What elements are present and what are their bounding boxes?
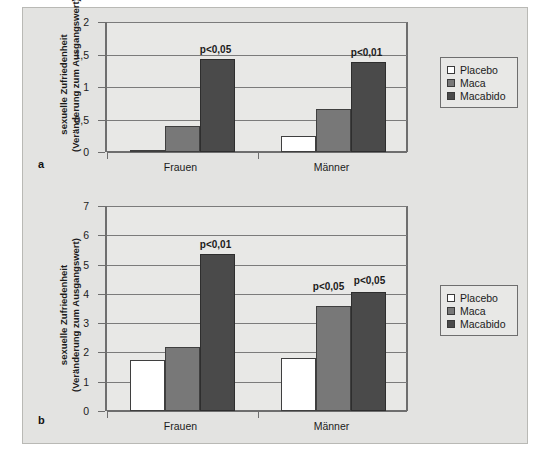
x-axis-category-label: Männer <box>272 420 392 432</box>
y-axis-label: 1,5 <box>59 50 89 60</box>
bar-frauen-macabido <box>200 59 235 152</box>
bar-männer-macabido <box>351 62 386 152</box>
y-axis-label: 2 <box>59 347 89 357</box>
gridline <box>107 22 407 23</box>
gridline <box>107 206 407 207</box>
y-axis-tick <box>98 235 105 236</box>
legend-label-placebo: Placebo <box>460 64 498 76</box>
legend-swatch-macabido-icon <box>447 320 455 328</box>
y-axis-tick <box>98 120 105 121</box>
panel-letter-b: b <box>38 414 45 426</box>
plot-area-a <box>105 22 407 152</box>
y-axis-tick <box>98 323 105 324</box>
gridline <box>107 235 407 236</box>
legend-label-macabido: Macabido <box>460 318 506 330</box>
bar-männer-placebo <box>281 358 316 411</box>
y-axis-label: 0 <box>59 406 89 416</box>
y-axis-label: 6 <box>59 230 89 240</box>
legend-label-macabido: Macabido <box>460 90 506 102</box>
legend-swatch-placebo-icon <box>447 66 455 74</box>
y-axis-tick <box>98 265 105 266</box>
legend-label-placebo: Placebo <box>460 292 498 304</box>
legend-b: PlaceboMacaMacabido <box>440 285 518 336</box>
bar-frauen-placebo <box>130 360 165 411</box>
legend-swatch-maca-icon <box>447 79 455 87</box>
y-axis-label: 0,5 <box>59 115 89 125</box>
p-value-annotation: p<0,01 <box>186 239 246 250</box>
x-axis-tick <box>258 152 259 159</box>
y-axis-label: 7 <box>59 201 89 211</box>
x-axis-category-label: Frauen <box>121 420 241 432</box>
y-axis-label: 5 <box>59 260 89 270</box>
legend-a: PlaceboMacaMacabido <box>440 57 518 108</box>
plot-area-b <box>105 206 407 411</box>
p-value-annotation: p<0,05 <box>340 275 400 286</box>
legend-item-placebo-a: Placebo <box>447 63 509 76</box>
legend-item-placebo-b: Placebo <box>447 291 509 304</box>
x-axis-tick <box>107 411 108 418</box>
legend-item-maca-b: Maca <box>447 304 509 317</box>
y-axis-tick <box>98 382 105 383</box>
y-axis-label: 0 <box>59 147 89 157</box>
bar-frauen-maca <box>165 126 200 152</box>
y-axis-tick <box>98 152 105 153</box>
y-axis-tick <box>98 87 105 88</box>
p-value-annotation: p<0,01 <box>337 47 397 58</box>
bar-männer-maca <box>316 306 351 411</box>
x-axis-tick <box>107 152 108 159</box>
legend-label-maca: Maca <box>460 305 486 317</box>
plot-right-border-b <box>406 206 408 411</box>
bar-frauen-macabido <box>200 254 235 411</box>
x-axis-category-label: Frauen <box>121 161 241 173</box>
legend-swatch-macabido-icon <box>447 92 455 100</box>
bar-männer-macabido <box>351 292 386 411</box>
panel-letter-a: a <box>38 158 44 170</box>
figure-root: sexuelle Zufriedenheit (Veränderung zum … <box>0 0 550 451</box>
y-axis-tick <box>98 411 105 412</box>
legend-swatch-maca-icon <box>447 307 455 315</box>
bar-frauen-placebo <box>130 150 165 152</box>
legend-label-maca: Maca <box>460 77 486 89</box>
gridline <box>107 265 407 266</box>
y-axis-tick <box>98 352 105 353</box>
legend-item-macabido-a: Macabido <box>447 89 509 102</box>
legend-item-maca-a: Maca <box>447 76 509 89</box>
y-axis-tick <box>98 294 105 295</box>
x-axis-category-label: Männer <box>272 161 392 173</box>
x-axis-tick <box>258 411 259 418</box>
y-axis-tick <box>98 55 105 56</box>
y-axis-label: 4 <box>59 289 89 299</box>
y-axis-tick <box>98 22 105 23</box>
bar-männer-maca <box>316 109 351 152</box>
y-axis-label: 1 <box>59 377 89 387</box>
y-axis-label: 2 <box>59 17 89 27</box>
bar-männer-placebo <box>281 136 316 152</box>
y-axis-label: 3 <box>59 318 89 328</box>
chart-panel-b: sexuelle Zufriedenheit (Veränderung zum … <box>0 190 550 451</box>
y-axis-tick <box>98 206 105 207</box>
p-value-annotation: p<0,05 <box>186 44 246 55</box>
chart-panel-a: sexuelle Zufriedenheit (Veränderung zum … <box>0 0 550 190</box>
y-axis-label: 1 <box>59 82 89 92</box>
legend-item-macabido-b: Macabido <box>447 317 509 330</box>
bar-frauen-maca <box>165 347 200 411</box>
legend-swatch-placebo-icon <box>447 294 455 302</box>
